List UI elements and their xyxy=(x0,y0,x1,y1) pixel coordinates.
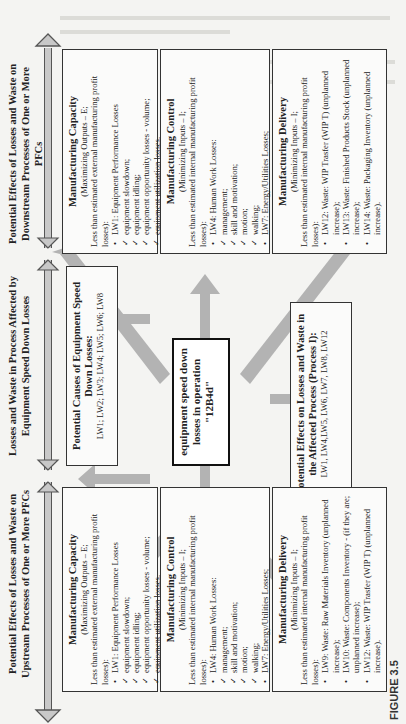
box-intro: Less than estimated internal manufacturi… xyxy=(187,494,208,685)
box-intro: Less than estimated internal manufacturi… xyxy=(299,494,320,685)
box-title: Manufacturing Control xyxy=(165,494,177,685)
list-item: LW7: Energy/Utilities Losses; xyxy=(260,494,270,685)
list-item: LW9: Waste: Raw Materials Inventory (unp… xyxy=(320,494,341,685)
box-title: Manufacturing Delivery xyxy=(277,56,289,247)
box-subtitle: (Minimizing Inputs – I; xyxy=(289,494,299,685)
list-item: walking; xyxy=(250,56,260,247)
effects-title: Potential Effects on Losses and Waste in… xyxy=(295,309,319,499)
list-item: LW12: Waste: WIP Trasfer (WIP T) (unplan… xyxy=(362,494,383,685)
list-item: LW1: Equipment Performance Losses xyxy=(110,56,120,247)
list-item: LW4: Human Work Losses: xyxy=(208,56,218,247)
list-item: LW14: Waste: Packaging Inventory (unplan… xyxy=(362,56,383,247)
downstream-delivery-box: Manufacturing Delivery (Minimizing Input… xyxy=(272,49,387,254)
list-item: equipment opportunity losses - volume; xyxy=(141,56,151,247)
upstream-control-box: Manufacturing Control (Minimizing Inputs… xyxy=(160,487,270,692)
box-title: Manufacturing Capacity xyxy=(67,494,79,685)
list-item: equipment opportunity losses - volume; xyxy=(141,494,151,685)
list-item: LW12: Waste: WIP Trasfer (WIP T) (unplan… xyxy=(320,56,341,247)
box-subtitle: (Maximizing Outputs – E; xyxy=(79,494,89,685)
list-item: skill and motivation; xyxy=(229,494,239,685)
list-item: motion; xyxy=(239,56,249,247)
box-intro: Less than estimated external manufacturi… xyxy=(89,494,110,685)
box-title: Manufacturing Control xyxy=(165,56,177,247)
box-intro: Less than estimated internal manufacturi… xyxy=(299,56,320,247)
list-item: equipment slowdown; xyxy=(121,494,131,685)
downstream-control-box: Manufacturing Control (Minimizing Inputs… xyxy=(160,49,270,254)
box-intro: Less than estimated external manufacturi… xyxy=(89,56,110,247)
causes-box: Potential Causes of Equipment Speed Down… xyxy=(66,266,118,466)
upstream-capacity-box: Manufacturing Capacity (Maximizing Outpu… xyxy=(62,487,158,692)
list-item: management; xyxy=(219,56,229,247)
upstream-delivery-box: Manufacturing Delivery (Minimizing Input… xyxy=(272,487,387,692)
list-item: LW1: Equipment Performance Losses xyxy=(110,494,120,685)
list-item: equipment slowdown; xyxy=(121,56,131,247)
effects-box: Potential Effects on Losses and Waste in… xyxy=(290,302,352,506)
box-subtitle: (Minimizing Inputs – I; xyxy=(177,494,187,685)
box-subtitle: (Minimizing Inputs – I; xyxy=(177,56,187,247)
center-text: equipment speed down losses in operation… xyxy=(177,348,215,456)
box-intro: Less than estimated internal manufacturi… xyxy=(187,56,208,247)
list-item: walking; xyxy=(250,494,260,685)
list-item: LW4: Human Work Losses: xyxy=(208,494,218,685)
downstream-capacity-box: Manufacturing Capacity (Maximizing Outpu… xyxy=(62,49,158,254)
list-item: LW13: Waste: Finished Products Stock (un… xyxy=(341,56,362,247)
list-item: equipment idling; xyxy=(131,56,141,247)
box-subtitle: (Maximizing Outputs – E; xyxy=(79,56,89,247)
center-box: equipment speed down losses in operation… xyxy=(172,338,230,466)
list-item: equipment idling; xyxy=(131,494,141,685)
list-item: management; xyxy=(219,494,229,685)
list-item: LW10: Waste: Components Inventory - (if … xyxy=(341,494,362,685)
box-title: Manufacturing Capacity xyxy=(67,56,79,247)
figure-label: FIGURE 3.5 xyxy=(388,660,400,720)
list-item: motion; xyxy=(239,494,249,685)
causes-title: Potential Causes of Equipment Speed Down… xyxy=(71,273,95,459)
box-subtitle: (Minimizing Inputs – I; xyxy=(289,56,299,247)
box-title: Manufacturing Delivery xyxy=(277,494,289,685)
figure-3-5: Potential Effects of Losses and Waste on… xyxy=(0,0,406,724)
list-item: LW7: Energy/Utilities Losses; xyxy=(260,56,270,247)
effects-items: LW1, LW4,LW5, LW6, LW7, LW8, LW12 xyxy=(319,309,329,499)
list-item: skill and motivation; xyxy=(229,56,239,247)
causes-items: LW1; LW2; LW3; LW4; LW5; LW6; LW8 xyxy=(95,273,105,459)
